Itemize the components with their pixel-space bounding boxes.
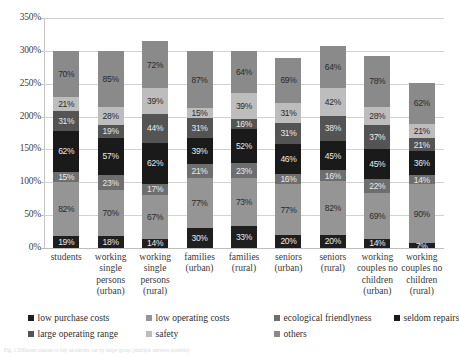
bar-segment[interactable]: 31% [53,111,79,131]
bar-segment[interactable]: 69% [275,58,301,103]
legend-item[interactable]: large operating range [28,327,118,340]
legend-item[interactable]: seldom repairs [394,311,459,324]
bar-value-label: 45% [364,160,390,169]
legend-item[interactable]: safety [146,327,178,340]
bar-segment[interactable]: 90% [409,184,435,243]
bar-segment[interactable]: 70% [98,190,124,236]
bar-segment[interactable]: 18% [98,236,124,248]
bar-segment[interactable]: 33% [231,226,257,248]
legend-swatch-icon [146,331,152,337]
bar-segment[interactable]: 73% [231,178,257,226]
legend-item[interactable]: low purchase costs [28,311,109,324]
bar-column[interactable]: 7%90%14%36%21%21%62% [409,83,435,248]
legend-label: low operating costs [156,313,230,323]
bar-segment[interactable]: 37% [364,125,390,149]
bar-segment[interactable]: 64% [320,46,346,88]
bar-value-label: 15% [187,109,213,118]
bar-segment[interactable]: 15% [53,172,79,182]
bar-segment[interactable]: 45% [364,149,390,179]
bar-column[interactable]: 20%82%16%45%38%42%64% [320,46,346,248]
bar-segment[interactable]: 21% [409,138,435,152]
bar-segment[interactable]: 16% [320,170,346,181]
x-axis-category-line: (rural) [128,286,182,297]
bar-value-label: 23% [231,166,257,175]
bar-value-label: 28% [364,111,390,120]
bar-segment[interactable]: 78% [364,56,390,107]
legend-label: safety [156,329,179,339]
bar-segment[interactable]: 70% [53,51,79,97]
bar-segment[interactable]: 46% [275,144,301,174]
bar-segment[interactable]: 67% [142,195,168,239]
bar-segment[interactable]: 15% [187,108,213,118]
bar-value-label: 39% [142,97,168,106]
bar-value-label: 52% [231,142,257,151]
x-axis-labels: studentsworkingsinglepersons(urban)worki… [44,252,444,310]
bar-column[interactable]: 18%70%23%57%19%28%85% [98,51,124,248]
bar-segment[interactable]: 39% [187,138,213,164]
legend-item[interactable]: low operating costs [146,311,229,324]
bar-segment[interactable]: 85% [98,51,124,107]
bar-segment[interactable]: 31% [275,103,301,123]
bar-segment[interactable]: 82% [53,182,79,236]
legend-item[interactable]: others [274,327,307,340]
bar-segment[interactable]: 77% [187,178,213,229]
bar-segment[interactable]: 21% [53,97,79,111]
bar-segment[interactable]: 14% [142,239,168,248]
bar-column[interactable]: 14%69%22%45%37%28%78% [364,56,390,248]
bar-value-label: 20% [320,237,346,246]
bar-segment[interactable]: 39% [142,88,168,114]
bar-segment[interactable]: 19% [53,236,79,248]
bar-column[interactable]: 20%77%16%46%31%31%69% [275,58,301,249]
bar-segment[interactable]: 17% [142,184,168,195]
legend-swatch-icon [28,315,34,321]
bar-segment[interactable]: 62% [142,143,168,184]
bar-segment[interactable]: 20% [320,235,346,248]
bar-segment[interactable]: 45% [320,141,346,171]
bar-segment[interactable]: 19% [98,125,124,137]
bar-segment[interactable]: 62% [53,131,79,172]
bar-segment[interactable]: 28% [364,107,390,125]
bar-segment[interactable]: 38% [320,116,346,141]
bar-segment[interactable]: 30% [187,228,213,248]
bar-segment[interactable]: 23% [98,175,124,190]
bar-segment[interactable]: 20% [275,235,301,248]
bar-segment[interactable]: 64% [231,51,257,93]
bar-segment[interactable]: 72% [142,41,168,88]
bar-segment[interactable]: 82% [320,181,346,235]
bar-segment[interactable]: 31% [275,123,301,143]
bar-segment[interactable]: 44% [142,114,168,143]
bar-value-label: 21% [409,126,435,135]
bar-segment[interactable]: 22% [364,179,390,193]
bar-segment[interactable]: 23% [231,163,257,178]
bar-segment[interactable]: 87% [187,51,213,108]
bar-segment[interactable]: 14% [409,175,435,184]
bar-value-label: 31% [275,109,301,118]
bar-segment[interactable]: 16% [275,174,301,185]
bar-segment[interactable]: 7% [409,243,435,248]
bar-segment[interactable]: 39% [231,93,257,119]
bar-segment[interactable]: 31% [187,118,213,138]
y-axis-tick-label: 50% [1,210,41,220]
bar-segment[interactable]: 57% [98,138,124,175]
bar-segment[interactable]: 21% [187,164,213,178]
bar-segment[interactable]: 77% [275,184,301,235]
bar-value-label: 39% [231,101,257,110]
bar-value-label: 44% [142,124,168,133]
bar-segment[interactable]: 14% [364,239,390,248]
bar-column[interactable]: 19%82%15%62%31%21%70% [53,51,79,248]
bar-segment[interactable]: 28% [98,107,124,125]
bar-segment[interactable]: 52% [231,129,257,163]
bar-column[interactable]: 30%77%21%39%31%15%87% [187,51,213,248]
bar-segment[interactable]: 42% [320,88,346,116]
bar-column[interactable]: 14%67%17%62%44%39%72% [142,41,168,248]
bar-segment[interactable]: 36% [409,151,435,175]
legend-item[interactable]: ecological friendlyness [274,311,371,324]
bar-segment[interactable]: 69% [364,193,390,238]
bar-value-label: 62% [409,99,435,108]
bar-segment[interactable]: 21% [409,124,435,138]
bar-segment[interactable]: 62% [409,83,435,124]
bar-value-label: 73% [231,198,257,207]
bar-column[interactable]: 33%73%23%52%16%39%64% [231,51,257,248]
bar-segment[interactable]: 16% [231,119,257,130]
bar-value-label: 15% [53,172,79,181]
